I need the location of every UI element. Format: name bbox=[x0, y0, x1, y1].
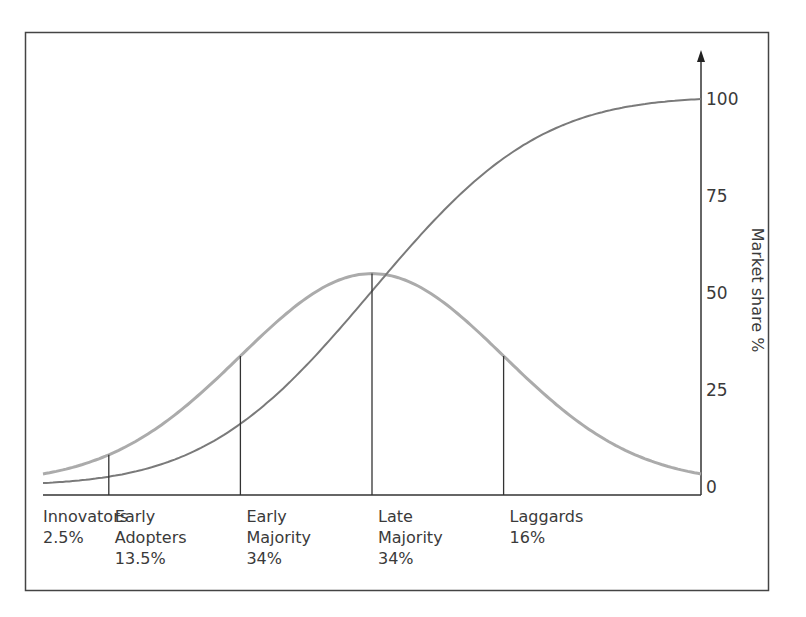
y-tick-label-100: 100 bbox=[706, 89, 738, 109]
segment-label-early-adopters: Early bbox=[115, 507, 155, 526]
y-tick-label-0: 0 bbox=[706, 477, 717, 497]
segment-label-late-majority: 34% bbox=[378, 549, 414, 568]
plot-area: 0255075100Innovators2.5%EarlyAdopters13.… bbox=[43, 50, 738, 568]
y-axis-title: Market share % bbox=[748, 228, 767, 353]
y-axis-arrow-icon bbox=[697, 50, 705, 62]
segment-label-early-adopters: 13.5% bbox=[115, 549, 166, 568]
diffusion-of-innovations-chart: 0255075100Innovators2.5%EarlyAdopters13.… bbox=[0, 0, 806, 617]
segment-label-innovators: 2.5% bbox=[43, 528, 84, 547]
segment-label-laggards: Laggards bbox=[510, 507, 584, 526]
segment-label-early-majority: 34% bbox=[246, 549, 282, 568]
segment-label-early-majority: Majority bbox=[246, 528, 311, 547]
segment-label-laggards: 16% bbox=[510, 528, 546, 547]
segment-label-early-adopters: Adopters bbox=[115, 528, 187, 547]
segment-label-late-majority: Late bbox=[378, 507, 413, 526]
y-tick-label-25: 25 bbox=[706, 380, 728, 400]
y-tick-label-50: 50 bbox=[706, 283, 728, 303]
segment-label-early-majority: Early bbox=[246, 507, 286, 526]
y-tick-label-75: 75 bbox=[706, 186, 728, 206]
segment-label-late-majority: Majority bbox=[378, 528, 443, 547]
